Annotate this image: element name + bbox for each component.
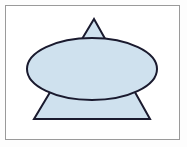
diagram-canvas: Triangle Ellipse Geometric shape composi… bbox=[0, 0, 187, 147]
ellipse-shape[interactable] bbox=[27, 38, 157, 100]
shapes-figure bbox=[0, 0, 187, 147]
